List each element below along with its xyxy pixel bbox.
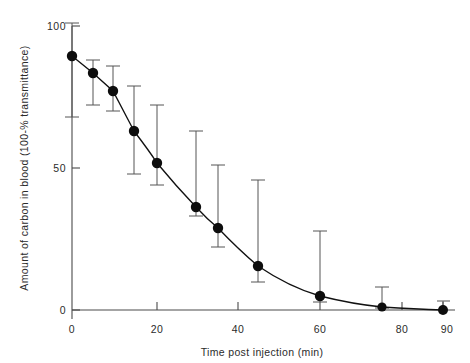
x-tick-label-80: 80 bbox=[396, 323, 409, 335]
y-tick-label-0: 0 bbox=[60, 304, 66, 316]
x-axis-title: Time post injection (min) bbox=[201, 346, 324, 358]
y-tick-label-50: 50 bbox=[53, 162, 66, 174]
data-point bbox=[213, 223, 223, 233]
x-tick-label-0: 0 bbox=[69, 323, 75, 335]
data-point bbox=[152, 158, 162, 168]
y-axis-title: Amount of carbon in blood (100-% transmi… bbox=[18, 45, 30, 290]
data-point bbox=[129, 126, 139, 136]
x-tick-label-90: 90 bbox=[441, 323, 454, 335]
x-tick-label-20: 20 bbox=[151, 323, 164, 335]
data-point bbox=[253, 261, 263, 271]
data-point bbox=[88, 68, 98, 78]
data-point bbox=[191, 202, 201, 212]
data-point bbox=[108, 86, 118, 96]
carbon-clearance-chart: 100 50 0 0 20 40 60 80 90 Time post inje… bbox=[0, 0, 470, 363]
x-tick-label-60: 60 bbox=[314, 323, 327, 335]
data-point bbox=[438, 305, 448, 315]
y-tick-label-100: 100 bbox=[47, 20, 66, 32]
data-point bbox=[377, 302, 386, 311]
data-point bbox=[67, 51, 77, 61]
x-tick-label-40: 40 bbox=[232, 323, 245, 335]
data-point bbox=[315, 291, 325, 301]
